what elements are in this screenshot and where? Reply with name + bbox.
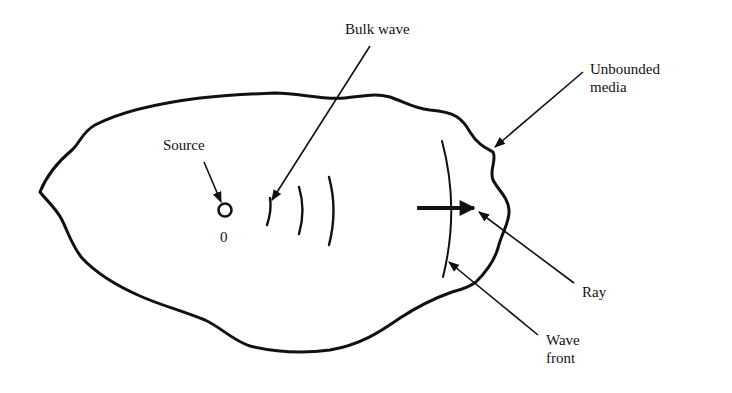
wave-arc-2: [299, 187, 303, 234]
wave-front-label-line1: Wave: [546, 332, 580, 349]
unbounded-media-label-line2: media: [590, 79, 627, 96]
ray-label: Ray: [582, 284, 606, 301]
origin-label: 0: [220, 229, 228, 246]
unbounded-media-pointer-line: [495, 72, 583, 147]
unbounded-media-label-line1: Unbounded: [590, 61, 660, 78]
source-pointer-line: [204, 162, 221, 202]
bulk-wave-pointer-line: [272, 46, 370, 200]
wave-arc-3: [329, 177, 334, 245]
wave-front-label-line2: front: [546, 350, 575, 367]
bulk-wave-label: Bulk wave: [345, 21, 410, 38]
ray-pointer-line: [479, 212, 574, 283]
source-label: Source: [163, 137, 205, 154]
wave-arc-1: [267, 198, 271, 225]
source-circle: [219, 204, 232, 217]
medium-boundary: [40, 93, 509, 352]
wave-diagram: [0, 0, 732, 393]
wave-front-pointer-line: [449, 262, 538, 335]
